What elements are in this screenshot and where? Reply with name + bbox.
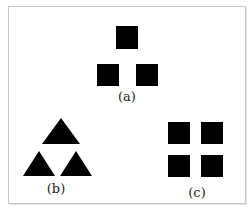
panel-a: (a) (97, 26, 158, 104)
panel-c-square-top-right (201, 122, 223, 144)
panel-b-label: (b) (47, 181, 65, 196)
panel-c-square-bottom-right (201, 155, 223, 177)
panel-b-triangle-bottom-left (23, 151, 55, 176)
panel-c-label: (c) (188, 185, 205, 200)
figure-canvas: (a) (b) (c) (0, 0, 252, 224)
panel-b-triangle-bottom-right (60, 151, 92, 176)
panel-c: (c) (168, 122, 223, 200)
panel-b: (b) (23, 118, 92, 196)
panel-a-square-top (116, 26, 138, 49)
panel-b-triangle-top (42, 118, 80, 144)
panel-c-square-top-left (168, 122, 190, 144)
panel-a-square-bottom-left (97, 64, 119, 86)
panel-a-square-bottom-right (136, 64, 158, 86)
panel-c-square-bottom-left (168, 155, 190, 177)
panel-a-label: (a) (118, 89, 136, 104)
